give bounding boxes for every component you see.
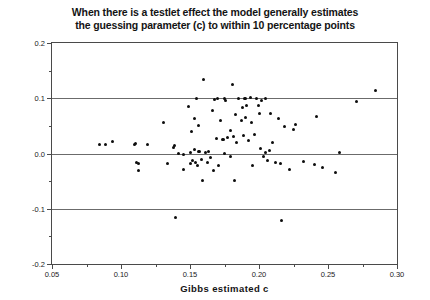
y-axis-minor-tick [49, 126, 52, 127]
data-point [260, 99, 263, 102]
x-axis-title: Gibbs estimated c [51, 283, 398, 294]
x-axis-tick [52, 264, 53, 269]
data-point [244, 116, 247, 119]
data-point [223, 152, 226, 155]
y-axis-minor-tick [49, 71, 52, 72]
data-point [216, 97, 219, 100]
y-axis-tick-label: -0.1 [32, 204, 45, 213]
data-point [231, 83, 234, 86]
data-point [242, 134, 245, 137]
data-point [206, 161, 209, 164]
data-point [229, 155, 232, 158]
x-axis-tick [328, 264, 329, 269]
data-point [283, 125, 286, 128]
data-point [217, 164, 220, 167]
data-point [234, 113, 237, 116]
x-axis-minor-tick [225, 264, 226, 267]
data-point [294, 123, 297, 126]
data-point [247, 139, 250, 142]
x-axis-tick-label: 0.25 [321, 270, 336, 279]
reference-line [52, 209, 397, 210]
y-axis-tick-label: -0.2 [32, 260, 45, 269]
data-point [269, 112, 272, 115]
data-point [187, 105, 190, 108]
data-point [200, 158, 203, 161]
data-point [98, 143, 101, 146]
data-point [104, 143, 107, 146]
data-point [244, 97, 247, 100]
data-point [174, 216, 177, 219]
y-axis-tick [47, 98, 52, 99]
x-axis-minor-tick [363, 264, 364, 267]
scatter-chart-figure: When there is a testlet effect the model… [0, 0, 430, 300]
data-point [334, 171, 337, 174]
data-point [173, 144, 176, 147]
data-point [190, 130, 193, 133]
plot-area [52, 43, 397, 264]
data-point [212, 169, 215, 172]
data-point [235, 141, 238, 144]
data-point [111, 140, 114, 143]
data-point [137, 162, 140, 165]
data-point [211, 109, 214, 112]
data-point [240, 119, 243, 122]
data-point [251, 164, 254, 167]
x-axis-tick [121, 264, 122, 269]
data-point [249, 96, 252, 99]
data-point [280, 219, 283, 222]
data-point [146, 143, 149, 146]
y-axis-tick [47, 209, 52, 210]
x-axis-tick [397, 264, 398, 269]
data-point [233, 179, 236, 182]
y-axis-minor-tick [49, 236, 52, 237]
plot-frame: 0.20.10.0-0.1-0.20.050.100.150.200.250.3… [51, 42, 398, 265]
data-point [292, 128, 295, 131]
data-point [315, 115, 318, 118]
data-point [134, 142, 137, 145]
x-axis-tick [259, 264, 260, 269]
y-axis-minor-tick [49, 181, 52, 182]
data-point [271, 141, 274, 144]
data-point [258, 112, 261, 115]
x-axis-tick-label: 0.10 [114, 270, 129, 279]
data-point [226, 136, 229, 139]
chart-title: When there is a testlet effect the model… [0, 6, 430, 32]
data-point [202, 78, 205, 81]
x-axis-tick-label: 0.30 [390, 270, 405, 279]
data-point [302, 160, 305, 163]
data-point [250, 121, 253, 124]
data-point [266, 159, 269, 162]
data-point [209, 156, 212, 159]
data-point [245, 104, 248, 107]
data-point [229, 129, 232, 132]
data-point [321, 166, 324, 169]
data-point [182, 168, 185, 171]
data-point [355, 100, 358, 103]
data-point [374, 89, 377, 92]
data-point [277, 117, 280, 120]
data-point [253, 133, 256, 136]
x-axis-tick [190, 264, 191, 269]
data-point [241, 106, 244, 109]
y-axis-tick [47, 154, 52, 155]
data-point [255, 97, 258, 100]
data-point [195, 97, 198, 100]
data-point [279, 162, 282, 165]
data-point [257, 104, 260, 107]
data-point [313, 163, 316, 166]
chart-title-line-2: the guessing parameter (c) to within 10 … [0, 19, 430, 32]
data-point [162, 121, 165, 124]
data-point [259, 147, 262, 150]
data-point [166, 162, 169, 165]
data-point [189, 162, 192, 165]
y-axis-tick-label: 0.2 [35, 39, 45, 48]
data-point [215, 137, 218, 140]
data-point [268, 149, 271, 152]
data-point [182, 153, 185, 156]
y-axis-tick [47, 43, 52, 44]
data-point [201, 179, 204, 182]
x-axis-minor-tick [156, 264, 157, 267]
data-point [274, 161, 277, 164]
x-axis-tick-label: 0.20 [252, 270, 267, 279]
y-axis-tick-label: 0.0 [35, 149, 45, 158]
